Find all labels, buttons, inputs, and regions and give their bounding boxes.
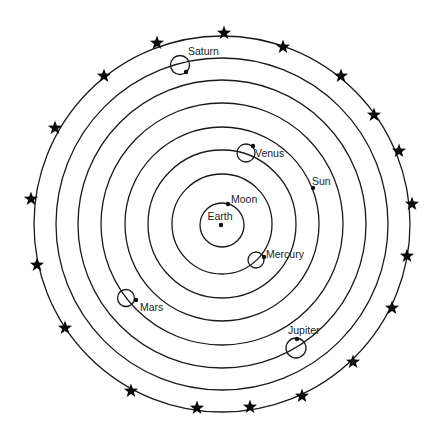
saturn-label: Saturn <box>188 45 219 57</box>
saturn-dot <box>184 70 188 74</box>
star-icon <box>367 108 381 122</box>
star-icon <box>346 355 360 369</box>
star-icon <box>97 69 111 83</box>
star-icon <box>392 144 406 158</box>
earth-dot <box>219 223 223 227</box>
diagram-canvas: Earth Moon Mercury Venus Sun Mars <box>0 0 438 438</box>
star-icon <box>48 121 62 135</box>
mars-dot <box>134 298 138 302</box>
star-icon <box>58 321 72 335</box>
star-icon <box>276 40 290 54</box>
mercury-label: Mercury <box>266 248 305 260</box>
star-icon <box>190 401 204 415</box>
mars: Mars <box>118 290 164 314</box>
sun-label: Sun <box>312 175 331 187</box>
moon-label: Moon <box>231 193 257 205</box>
star-icon <box>385 301 399 315</box>
star-icon <box>405 197 419 211</box>
geocentric-diagram: Earth Moon Mercury Venus Sun Mars <box>0 0 438 438</box>
mercury: Mercury <box>248 248 305 268</box>
star-icon <box>217 26 231 40</box>
star-icon <box>334 69 348 83</box>
moon: Moon <box>226 193 258 206</box>
jupiter: Jupiter <box>286 324 320 358</box>
jupiter-label: Jupiter <box>288 324 320 336</box>
mars-label: Mars <box>140 301 163 313</box>
jupiter-dot <box>295 337 299 341</box>
star-icon <box>30 258 44 272</box>
venus-label: Venus <box>255 147 284 159</box>
sun: Sun <box>311 175 331 190</box>
moon-dot <box>226 202 230 206</box>
star-icon <box>295 389 309 403</box>
earth: Earth <box>207 210 232 227</box>
earth-label: Earth <box>207 210 232 222</box>
